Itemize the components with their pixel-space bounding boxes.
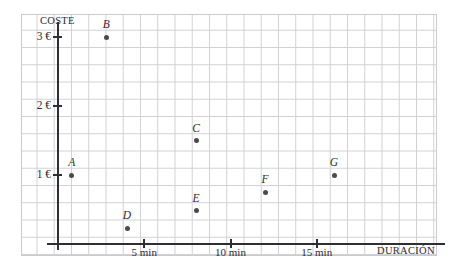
y-axis-line [57,22,59,250]
y-tick-label: 1 € [17,169,51,181]
data-point-d[interactable] [125,226,130,231]
data-point-e[interactable] [194,208,199,213]
y-axis-title: COSTE [40,16,75,27]
chart-screenshot: COSTE DURACIÓN 1 €2 €3 € 5 min10 min15 m… [0,0,459,277]
y-tick-mark [53,174,62,176]
data-point-f[interactable] [263,190,268,195]
data-point-b[interactable] [104,35,109,40]
data-point-label-b: B [103,19,110,31]
x-axis-title: DURACIÓN [377,246,435,257]
data-point-c[interactable] [194,138,199,143]
data-point-label-e: E [192,192,199,204]
y-tick-label: 3 € [17,31,51,43]
data-point-label-d: D [123,210,131,222]
data-point-label-g: G [330,157,338,169]
data-point-a[interactable] [69,173,74,178]
chart-grid-frame [21,14,437,256]
x-tick-label: 10 min [201,247,261,258]
y-tick-mark [53,36,62,38]
data-point-label-f: F [261,174,268,186]
x-tick-label: 5 min [114,247,174,258]
data-point-label-a: A [68,157,75,169]
y-tick-mark [53,105,62,107]
data-point-g[interactable] [332,173,337,178]
y-tick-label: 2 € [17,100,51,112]
data-point-label-c: C [192,122,200,134]
x-tick-label: 15 min [287,247,347,258]
